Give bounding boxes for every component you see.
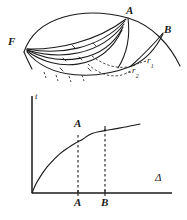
x-tick-label-a: A: [74, 197, 81, 208]
y-axis-label: t: [35, 92, 38, 101]
response-chart: [0, 0, 187, 220]
x-axis-label: Δ: [155, 172, 161, 183]
curve-annotation-a: A: [74, 118, 81, 129]
x-tick-label-b: B: [101, 197, 108, 208]
data-curve: [32, 124, 140, 193]
figure-root: F A B r1 r2 t Δ A A B: [0, 0, 187, 220]
